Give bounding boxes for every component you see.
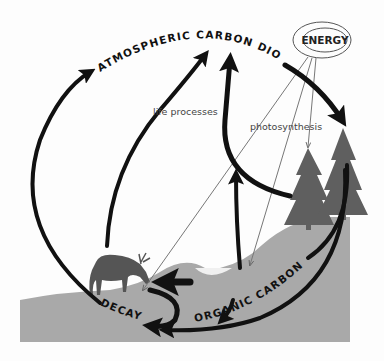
energy-node: ENERGY — [293, 22, 351, 58]
atmosphere-label: ATMOSPHERIC CARBON DIOXIDE — [0, 0, 284, 74]
life-processes-label: life processes — [153, 106, 218, 117]
energy-label: ENERGY — [301, 34, 349, 46]
carbon-cycle-diagram: ENERGY ATMOSPHERIC CARBON DIOXIDE life p… — [0, 0, 384, 361]
photosynthesis-label: photosynthesis — [250, 121, 322, 132]
